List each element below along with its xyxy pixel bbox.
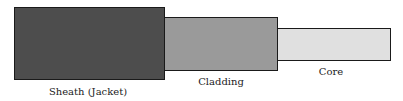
sheath-label: Sheath (Jacket) bbox=[49, 86, 127, 97]
cladding-block bbox=[164, 17, 278, 71]
core-block bbox=[277, 28, 391, 61]
core-label: Core bbox=[319, 66, 343, 77]
sheath-block bbox=[14, 7, 165, 80]
cladding-label: Cladding bbox=[198, 76, 244, 87]
